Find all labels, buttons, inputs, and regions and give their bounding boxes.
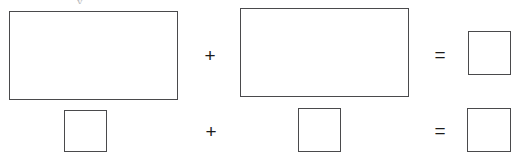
square-small-2[interactable] <box>64 110 107 152</box>
operator-plus-2: + <box>203 122 219 141</box>
rect-large-2[interactable] <box>240 8 409 97</box>
square-small-3[interactable] <box>298 108 341 152</box>
operator-equals-1: = <box>432 45 448 64</box>
rect-large-1[interactable] <box>9 11 178 100</box>
square-small-4[interactable] <box>467 108 511 152</box>
operator-equals-2: = <box>432 121 448 140</box>
operator-plus-1: + <box>202 46 218 65</box>
scan-artifact-glyph: y <box>77 0 89 4</box>
square-small-1[interactable] <box>468 31 511 75</box>
worksheet-canvas: y + = + = <box>0 0 522 164</box>
